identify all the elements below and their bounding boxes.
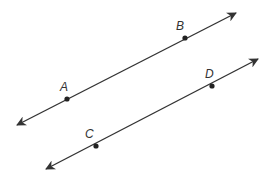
label-c: C — [85, 127, 94, 141]
point-b — [182, 35, 187, 40]
line-ab — [17, 13, 236, 125]
diagram-canvas: A B C D — [0, 0, 276, 178]
label-d: D — [205, 67, 214, 81]
line-cd — [46, 59, 258, 169]
parallel-lines-figure: A B C D — [0, 0, 276, 178]
point-a — [64, 96, 69, 101]
label-b: B — [176, 19, 184, 33]
point-c — [93, 143, 98, 148]
point-d — [209, 83, 214, 88]
label-a: A — [59, 80, 68, 94]
